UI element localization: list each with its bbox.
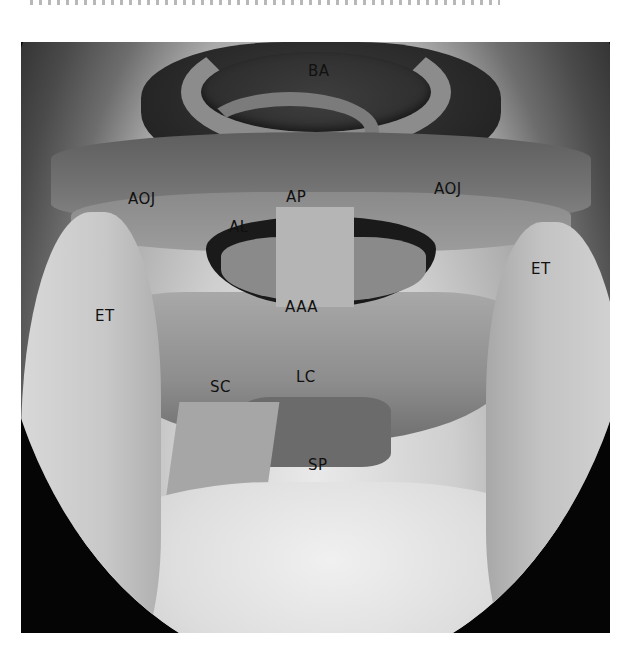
label-sp: SP [308,456,328,474]
label-aoj-right: AOJ [434,180,462,198]
apical-ligament-region [276,207,354,307]
cropped-caption-text [30,0,500,5]
label-ap: AP [286,188,306,206]
eustachian-tube-right [486,222,610,633]
endoscope-field-of-view [21,42,610,633]
label-lc: LC [296,368,316,386]
label-et-left: ET [95,307,115,325]
label-aoj-left: AOJ [128,190,156,208]
label-et-right: ET [531,260,551,278]
endoscopic-image-frame [21,42,610,633]
label-aaa: AAA [285,298,318,316]
label-al: AL [229,218,249,236]
label-ba: BA [308,62,330,80]
label-sc: SC [210,378,231,396]
eustachian-tube-left [21,212,161,633]
